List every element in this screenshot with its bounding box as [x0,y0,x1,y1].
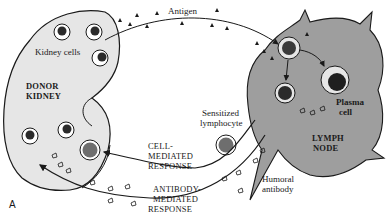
plasma-cell [321,66,349,94]
kidney-cell [54,24,70,40]
transplant-rejection-diagram: Antigen Kidney cells DONOR KIDNEY Plasma… [0,0,388,217]
lymph-node-label-line2: NODE [313,143,338,153]
kidney-cell [92,50,108,66]
sensitized-lymphocyte [216,135,236,155]
kidney-cell [58,122,74,138]
humoral-antibody-label-line1: Humoral [262,174,294,184]
antibody-mediated-label-line2: MEDIATED [153,194,198,204]
kidney-cell [86,24,102,40]
antigen-label: Antigen [168,6,197,16]
cell-mediated-label-line3: RESPONSE [148,161,192,171]
humoral-antibody-label-line2: antibody [262,184,294,194]
panel-letter: A [9,200,16,210]
plasma-cell-label-line1: Plasma [336,97,364,107]
antibody-mediated-label-line3: RESPONSE [148,204,192,214]
kidney-cells-label: Kidney cells [35,47,80,57]
antigen-arrow [105,18,278,44]
donor-kidney-label-line2: KIDNEY [26,91,61,101]
cell-mediated-label-line1: CELL- [148,141,173,151]
plasma-cell-label-line2: cell [339,107,352,117]
donor-kidney-label-line1: DONOR [26,81,59,91]
antigen-presenting-lymphocyte [278,37,300,59]
attacking-lymphocyte [80,140,100,160]
antibody-mediated-label-line1: ANTIBODY- [153,184,201,194]
kidney-cell [22,128,38,144]
lymph-node-label-line1: LYMPH [312,133,344,143]
activated-lymphocyte [275,83,295,103]
cell-mediated-label-line2: MEDIATED [148,151,193,161]
sensitized-lymphocyte-label-line1: Sensitized [202,108,239,118]
sensitized-lymphocyte-label-line2: lymphocyte [200,118,243,128]
